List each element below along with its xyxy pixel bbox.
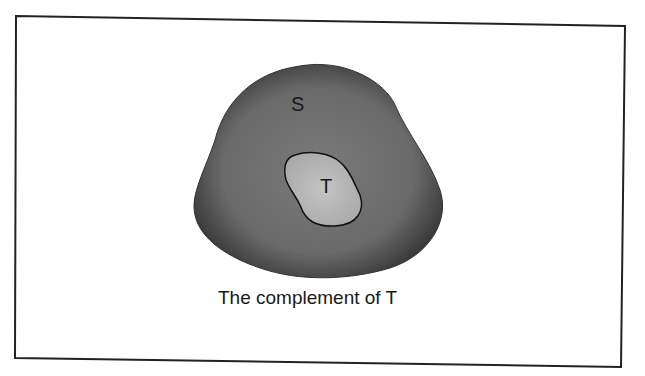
diagram-canvas: S T: [0, 0, 645, 376]
set-s-label: S: [291, 93, 304, 115]
diagram-caption: The complement of T: [218, 287, 397, 309]
set-t-label: T: [320, 175, 332, 197]
